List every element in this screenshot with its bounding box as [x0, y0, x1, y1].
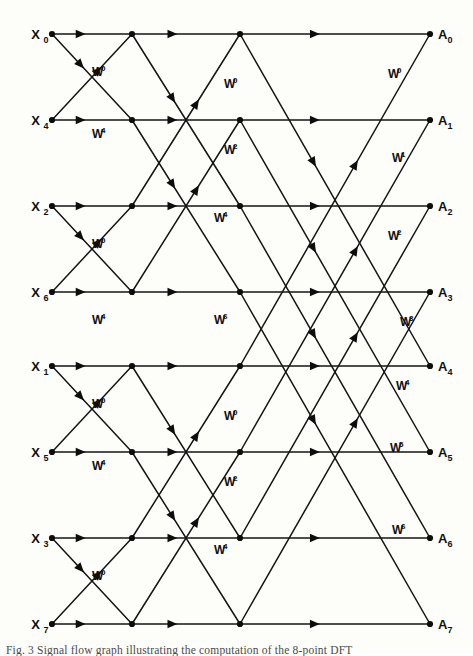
twiddle-label: W2 [388, 228, 402, 243]
input-label-X7-base: X [31, 617, 40, 632]
input-label-X0-base: X [31, 27, 40, 42]
edge-arrowhead [76, 30, 86, 39]
edge-arrowhead [76, 116, 86, 125]
input-label-X1: X1 [31, 359, 48, 378]
butterfly-node [237, 117, 243, 123]
edge-arrowhead [167, 534, 177, 543]
twiddle-label: W4 [214, 210, 228, 225]
edge-arrowhead [307, 156, 319, 169]
butterfly-node [129, 289, 135, 295]
edge-arrowhead [310, 620, 320, 629]
output-label-A0-base: A [438, 27, 448, 42]
butterfly-node [129, 535, 135, 541]
edge-arrowhead [167, 116, 177, 125]
output-node [427, 117, 433, 123]
edge-arrowhead [167, 288, 177, 297]
twiddle-label: W1 [392, 150, 406, 165]
edge-arrowhead [76, 534, 86, 543]
twiddle-label: W4 [92, 458, 106, 473]
twiddle-label: W2 [224, 474, 238, 489]
butterfly-node [237, 621, 243, 627]
output-label-A4: A4 [438, 359, 453, 378]
input-label-X5-subscript: 5 [44, 453, 49, 463]
twiddle-label: W6 [214, 312, 228, 327]
edge-arrowhead [310, 30, 320, 39]
butterfly-node [237, 203, 243, 209]
twiddle-exponent: 4 [101, 126, 106, 135]
edge-arrowhead [76, 448, 86, 457]
input-label-X7-subscript: 7 [44, 625, 49, 635]
edge-arrowhead [76, 362, 86, 371]
butterfly-node [237, 31, 243, 37]
twiddle-exponent: 4 [101, 312, 106, 321]
twiddle-exponent: 0 [233, 408, 238, 417]
edge-arrowhead [310, 116, 320, 125]
butterfly-node [237, 289, 243, 295]
input-label-X3-subscript: 3 [44, 539, 49, 549]
input-node [49, 363, 55, 369]
edge-arrowhead [310, 534, 320, 543]
output-label-A6: A6 [438, 531, 453, 550]
twiddle-label: W4 [396, 378, 410, 393]
edge-arrowhead [349, 158, 361, 171]
output-node [427, 203, 433, 209]
edge-arrowhead [310, 202, 320, 211]
input-label-X4: X4 [31, 113, 48, 132]
edge-arrowhead [166, 178, 178, 191]
output-label-A4-subscript: 4 [448, 367, 453, 377]
twiddle-exponent: 5 [399, 440, 404, 449]
butterfly-node [129, 363, 135, 369]
edge-arrowhead [76, 202, 86, 211]
output-node [427, 621, 433, 627]
input-label-X6: X6 [31, 285, 48, 304]
twiddle-label: W0 [92, 236, 106, 251]
edge-arrowhead [310, 288, 320, 297]
edge-arrowhead [167, 448, 177, 457]
output-label-A7: A7 [438, 617, 453, 636]
twiddle-exponent: 0 [233, 76, 238, 85]
edge-arrowhead [76, 288, 86, 297]
output-label-A2-subscript: 2 [448, 207, 453, 217]
edge-arrowhead [190, 429, 202, 442]
butterfly-node [237, 535, 243, 541]
twiddle-label: W4 [92, 312, 106, 327]
twiddle-exponent: 4 [223, 210, 228, 219]
input-label-X6-base: X [31, 285, 40, 300]
output-node [427, 535, 433, 541]
twiddle-label: W6 [392, 522, 406, 537]
input-label-X4-base: X [31, 113, 40, 128]
twiddle-label: W0 [224, 408, 238, 423]
input-node [49, 289, 55, 295]
input-label-X0-subscript: 0 [44, 35, 49, 45]
input-node [49, 449, 55, 455]
twiddle-exponent: 2 [233, 474, 238, 483]
output-node [427, 363, 433, 369]
output-label-A6-subscript: 6 [448, 539, 453, 549]
input-label-X7: X7 [31, 617, 48, 636]
butterfly-node [237, 449, 243, 455]
twiddle-exponent: 0 [397, 66, 402, 75]
butterfly-node [129, 31, 135, 37]
input-node [49, 621, 55, 627]
twiddle-label: W2 [224, 142, 238, 157]
figure-caption: Fig. 3 Signal flow graph illustrating th… [6, 644, 468, 656]
twiddle-exponent: 0 [101, 236, 106, 245]
twiddle-exponent: 6 [223, 312, 228, 321]
twiddle-exponent: 3 [409, 314, 414, 323]
edge-arrowhead [310, 362, 320, 371]
output-label-A0-subscript: 0 [448, 35, 453, 45]
twiddle-label: W0 [92, 396, 106, 411]
twiddle-exponent: 4 [405, 378, 410, 387]
twiddle-exponent: 1 [401, 150, 406, 159]
input-label-X3-base: X [31, 531, 40, 546]
twiddle-exponent: 2 [397, 228, 402, 237]
edge-arrowhead [190, 97, 202, 110]
edge-arrowhead [166, 510, 178, 523]
edge-arrowhead [310, 448, 320, 457]
edge-arrowhead [166, 92, 178, 105]
output-node [427, 31, 433, 37]
edge-arrowhead [190, 515, 202, 528]
output-label-A5-base: A [438, 445, 448, 460]
